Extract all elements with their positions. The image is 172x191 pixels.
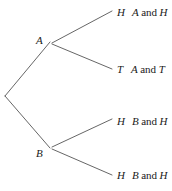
- leaf-outcome-row: H BandH: [117, 170, 168, 181]
- leaf-flip-label: H: [117, 170, 125, 181]
- outcome-conjunction: and: [141, 115, 157, 127]
- outcome-first-letter: A: [132, 6, 139, 18]
- outcome-conjunction: and: [141, 169, 157, 181]
- leaf-outcome-text: AandH: [132, 7, 168, 18]
- node-label-A: A: [36, 35, 43, 46]
- outcome-first-letter: A: [131, 63, 138, 75]
- leaf-outcome-row: T AandT: [117, 64, 165, 75]
- leaf-flip-label: H: [117, 7, 125, 18]
- outcome-first-letter: B: [132, 169, 139, 181]
- edge-root-to-B: [5, 96, 50, 148]
- tree-branches: [0, 0, 172, 191]
- outcome-second-letter: H: [160, 115, 168, 127]
- edge-A-to-H: [52, 11, 112, 43]
- outcome-conjunction: and: [140, 63, 156, 75]
- node-label-B: B: [36, 148, 43, 159]
- leaf-outcome-text: BandH: [132, 170, 168, 181]
- outcome-first-letter: B: [132, 115, 139, 127]
- edge-B-to-H-upper: [52, 119, 112, 147]
- leaf-outcome-text: AandT: [131, 64, 165, 75]
- edge-A-to-T: [52, 44, 112, 69]
- leaf-flip-label: T: [117, 64, 124, 75]
- leaf-outcome-text: BandH: [132, 116, 168, 127]
- edge-B-to-H-lower: [52, 149, 112, 175]
- leaf-flip-label: H: [117, 116, 125, 127]
- leaf-outcome-row: H BandH: [117, 116, 168, 127]
- probability-tree-diagram: A B H AandH T AandT H BandH H BandH: [0, 0, 172, 191]
- outcome-second-letter: T: [159, 63, 165, 75]
- leaf-outcome-row: H AandH: [117, 7, 168, 18]
- outcome-second-letter: H: [160, 169, 168, 181]
- edge-root-to-A: [5, 42, 50, 96]
- outcome-second-letter: H: [160, 6, 168, 18]
- outcome-conjunction: and: [141, 6, 157, 18]
